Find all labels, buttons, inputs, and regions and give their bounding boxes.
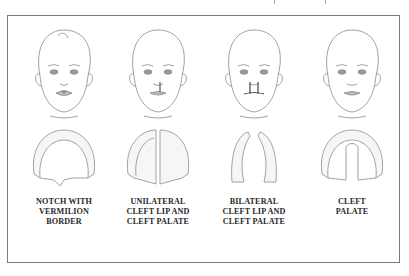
label-line: CLEFT xyxy=(304,197,400,207)
infant-face-normal-illustration xyxy=(314,24,390,122)
label-line: NOTCH WITH xyxy=(16,197,112,207)
panel-cleft-palate: CLEFT PALATE xyxy=(304,16,400,262)
palate-bilateral-illustration xyxy=(218,126,290,188)
palate-cleft-illustration xyxy=(316,126,388,188)
infant-face-unilateral-illustration xyxy=(120,24,196,122)
panel-label: BILATERAL CLEFT LIP AND CLEFT PALATE xyxy=(206,197,302,227)
top-mark xyxy=(325,0,326,4)
panel-notch: NOTCH WITH VERMILION BORDER xyxy=(16,16,112,262)
label-line: CLEFT PALATE xyxy=(206,217,302,227)
label-line: CLEFT PALATE xyxy=(110,217,206,227)
panel-label: UNILATERAL CLEFT LIP AND CLEFT PALATE xyxy=(110,197,206,227)
label-line: VERMILION xyxy=(16,207,112,217)
label-line: UNILATERAL xyxy=(110,197,206,207)
infant-face-bilateral-illustration xyxy=(216,24,292,122)
panel-bilateral: BILATERAL CLEFT LIP AND CLEFT PALATE xyxy=(206,16,302,262)
label-line: BILATERAL xyxy=(206,197,302,207)
palate-unilateral-illustration xyxy=(122,126,194,188)
palate-notch-illustration xyxy=(28,126,100,188)
panel-unilateral: UNILATERAL CLEFT LIP AND CLEFT PALATE xyxy=(110,16,206,262)
panel-label: NOTCH WITH VERMILION BORDER xyxy=(16,197,112,227)
label-line: CLEFT LIP AND xyxy=(206,207,302,217)
label-line: CLEFT LIP AND xyxy=(110,207,206,217)
figure-frame: NOTCH WITH VERMILION BORDER xyxy=(7,15,400,263)
label-line: BORDER xyxy=(16,217,112,227)
infant-face-notch-illustration xyxy=(26,24,102,122)
panel-label: CLEFT PALATE xyxy=(304,197,400,217)
top-mark xyxy=(274,0,275,4)
label-line: PALATE xyxy=(304,207,400,217)
